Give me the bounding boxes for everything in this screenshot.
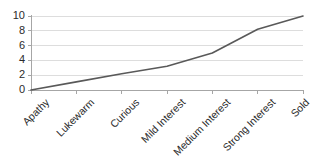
y-tick-label-10: 10	[13, 9, 25, 21]
y-tick-label-0: 0	[19, 83, 25, 95]
line-chart: 10 8 6 4 2 0 Apathy Lukewarm Curious Mil…	[0, 0, 311, 165]
y-tick-label-6: 6	[19, 39, 25, 51]
y-tick-label-8: 8	[19, 24, 25, 36]
y-tick-label-2: 2	[19, 68, 25, 80]
y-tick-label-4: 4	[19, 53, 25, 65]
chart-background	[0, 0, 311, 165]
chart-canvas: 10 8 6 4 2 0 Apathy Lukewarm Curious Mil…	[0, 0, 311, 165]
